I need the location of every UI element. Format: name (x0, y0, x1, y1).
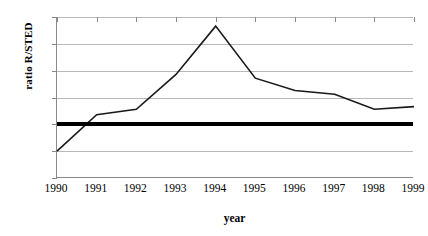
x-tick-label-1999: 1999 (391, 182, 428, 194)
x-tick-label-1998: 1998 (351, 182, 395, 194)
plot-area (56, 17, 413, 178)
y-tick-mark-0 (52, 178, 57, 179)
x-tick-label-1993: 1993 (153, 182, 197, 194)
y-axis-title: ratio R/STED (22, 0, 34, 131)
x-tick-mark-1999 (414, 17, 415, 22)
chart-figure: ratio R/STED 050100150200250300 19901991… (0, 0, 428, 236)
x-tick-label-1990: 1990 (34, 182, 78, 194)
x-axis-title: year (56, 212, 413, 224)
x-tick-label-1995: 1995 (232, 182, 276, 194)
x-tick-label-1992: 1992 (113, 182, 157, 194)
x-tick-label-1994: 1994 (193, 182, 237, 194)
data-series-line (57, 17, 414, 178)
x-tick-label-1996: 1996 (272, 182, 316, 194)
x-tick-label-1991: 1991 (74, 182, 118, 194)
reference-line-100 (57, 122, 413, 126)
x-tick-label-1997: 1997 (312, 182, 356, 194)
